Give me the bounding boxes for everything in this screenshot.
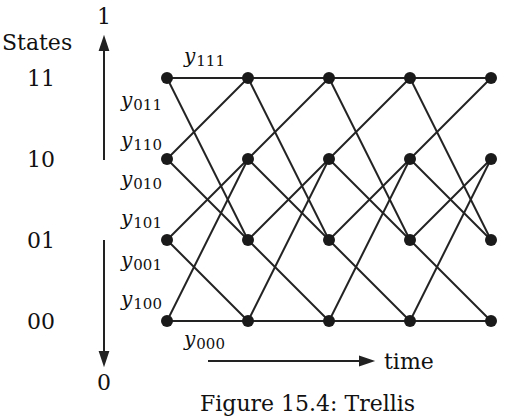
trellis-edge (248, 78, 329, 240)
trellis-node (485, 234, 497, 246)
trellis-edge (248, 240, 329, 321)
trellis-node (404, 72, 416, 84)
trellis-node (323, 72, 335, 84)
trellis-edge (410, 78, 491, 159)
trellis-node (485, 153, 497, 165)
trellis-node (404, 153, 416, 165)
trellis-node (323, 315, 335, 327)
trellis-edge (410, 78, 491, 240)
trellis-node (161, 234, 173, 246)
trellis-node (404, 234, 416, 246)
trellis-node (404, 315, 416, 327)
trellis-edge (329, 78, 410, 240)
trellis-edge (248, 159, 329, 321)
trellis-edge (167, 159, 248, 321)
trellis-node (161, 315, 173, 327)
trellis-node (242, 153, 254, 165)
trellis-node (242, 234, 254, 246)
trellis-edge (167, 78, 248, 240)
trellis-edge (410, 240, 491, 321)
trellis-node (485, 72, 497, 84)
trellis-node (323, 153, 335, 165)
trellis-edge (329, 240, 410, 321)
trellis-edge (167, 78, 248, 159)
trellis-node (323, 234, 335, 246)
trellis-node (161, 72, 173, 84)
trellis-edge (329, 159, 410, 321)
trellis-edge (248, 78, 329, 159)
trellis-edge (410, 159, 491, 321)
trellis-edge (167, 240, 248, 321)
trellis-node (242, 72, 254, 84)
trellis-edge (329, 78, 410, 159)
trellis-node (485, 315, 497, 327)
trellis-node (242, 315, 254, 327)
trellis-node (161, 153, 173, 165)
